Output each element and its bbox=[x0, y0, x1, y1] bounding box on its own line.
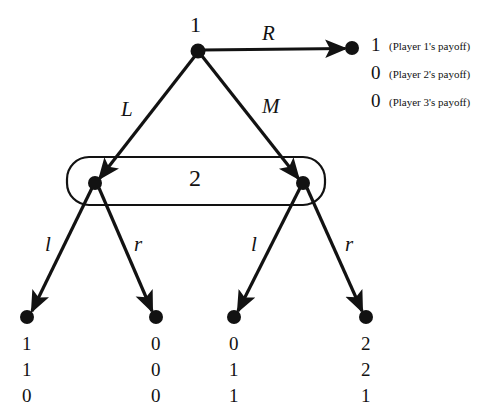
edge-left-l bbox=[32, 188, 92, 311]
payoff-value-player1: 0 bbox=[229, 331, 239, 357]
action-label-R: R bbox=[262, 23, 275, 44]
payoff-value-player3: 0 bbox=[22, 383, 32, 409]
node-terminal-Ll[interactable] bbox=[20, 310, 34, 324]
player1-node-label: 1 bbox=[190, 14, 201, 36]
edge-root-R bbox=[202, 49, 345, 51]
edge-root-L bbox=[100, 56, 196, 179]
payoff-value-player1: 1 bbox=[371, 34, 389, 56]
action-label-left-l: l bbox=[45, 234, 51, 255]
payoff-vector-Ml: 0 1 1 bbox=[229, 331, 239, 409]
payoff-value-player2: 2 bbox=[361, 357, 371, 383]
payoff-vector-Mr: 2 2 1 bbox=[361, 331, 371, 409]
node-player2-right[interactable] bbox=[296, 176, 310, 190]
payoff-note-player2: (Player 2's payoff) bbox=[389, 68, 470, 80]
payoff-vector-Ll: 1 1 0 bbox=[22, 331, 32, 409]
payoff-value-player1: 2 bbox=[361, 331, 371, 357]
action-label-right-l: l bbox=[251, 234, 257, 255]
node-root-player1[interactable] bbox=[191, 44, 206, 59]
payoff-value-player1: 0 bbox=[151, 331, 161, 357]
edge-right-r bbox=[307, 188, 362, 311]
payoff-value-player2: 0 bbox=[371, 62, 389, 84]
node-terminal-Lr[interactable] bbox=[149, 310, 163, 324]
payoff-value-player3: 1 bbox=[361, 383, 371, 409]
payoff-vector-Lr: 0 0 0 bbox=[151, 331, 161, 409]
game-tree-diagram: 1 2 R L M l r l r 1 (Player 1's payoff) … bbox=[0, 0, 477, 419]
action-label-left-r: r bbox=[134, 234, 142, 255]
node-terminal-Ml[interactable] bbox=[227, 310, 241, 324]
payoff-row: 0 (Player 2's payoff) bbox=[371, 62, 470, 90]
edge-left-r bbox=[99, 188, 152, 311]
payoff-row: 1 (Player 1's payoff) bbox=[371, 34, 470, 62]
action-label-L: L bbox=[121, 99, 133, 120]
action-label-right-r: r bbox=[345, 234, 353, 255]
node-terminal-R[interactable] bbox=[345, 41, 359, 55]
edge-right-l bbox=[238, 188, 300, 311]
payoff-note-player3: (Player 3's payoff) bbox=[389, 96, 470, 108]
node-terminal-Mr[interactable] bbox=[359, 310, 373, 324]
information-set-label: 2 bbox=[189, 166, 201, 190]
payoff-note-player1: (Player 1's payoff) bbox=[389, 40, 470, 52]
action-label-M: M bbox=[262, 96, 280, 117]
node-player2-left[interactable] bbox=[88, 176, 102, 190]
edge-root-M bbox=[202, 56, 299, 179]
payoff-vector-R: 1 (Player 1's payoff) 0 (Player 2's payo… bbox=[371, 34, 470, 118]
payoff-value-player3: 1 bbox=[229, 383, 239, 409]
payoff-value-player2: 1 bbox=[22, 357, 32, 383]
payoff-row: 0 (Player 3's payoff) bbox=[371, 90, 470, 118]
payoff-value-player2: 1 bbox=[229, 357, 239, 383]
payoff-value-player1: 1 bbox=[22, 331, 32, 357]
payoff-value-player3: 0 bbox=[151, 383, 161, 409]
payoff-value-player3: 0 bbox=[371, 90, 389, 112]
payoff-value-player2: 0 bbox=[151, 357, 161, 383]
